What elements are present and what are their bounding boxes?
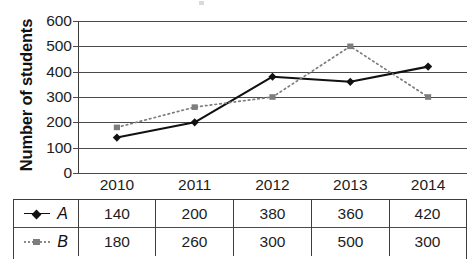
legend-cell-a: A [14,200,79,228]
page-artifact [199,1,204,5]
y-axis-tick-label: 0 [34,165,72,181]
table-cell: 180 [79,228,156,256]
table-cell: 140 [79,200,156,228]
y-axis-tick-label: 100 [34,140,72,156]
y-axis-tick-label: 600 [34,13,72,29]
data-point-b [425,94,431,100]
y-axis-tick-label: 200 [34,114,72,130]
y-axis-tick-label: 300 [34,89,72,105]
series-label-a: A [57,200,68,228]
table-cell: 300 [390,228,465,256]
data-point-b [347,44,353,50]
data-point-a [268,73,276,81]
y-axis-tick-label: 400 [34,64,72,80]
table-cell: 360 [312,200,390,228]
table-cell: 200 [156,200,234,228]
data-point-a [346,78,354,86]
series-label-b: B [57,228,68,256]
table-cell: 420 [390,200,465,228]
table-cell: 500 [312,228,390,256]
series-lines [78,21,467,173]
gridline [78,173,467,174]
square-marker-icon [24,237,50,247]
data-point-a [424,63,432,71]
data-table: A 140 200 380 360 420 B 180 260 300 500 … [13,199,467,259]
plot-area: 0100200300400500600 [78,21,467,173]
table-cell: 300 [234,228,312,256]
x-axis-tick-label: 2014 [389,176,467,194]
legend-cell-b: B [14,228,79,256]
y-axis-tick [73,173,78,174]
series-line-b [117,46,428,127]
table-row: A 140 200 380 360 420 [14,200,466,228]
table-row: B 180 260 300 500 300 [14,228,466,256]
table-cell: 380 [234,200,312,228]
data-point-b [192,104,198,110]
x-axis-tick-label: 2012 [234,176,312,194]
y-axis-tick-label: 500 [34,38,72,54]
data-point-a [113,133,121,141]
diamond-marker-icon [24,209,50,219]
table-cell: 260 [156,228,234,256]
x-axis-tick-label: 2013 [311,176,389,194]
data-point-b [114,125,120,131]
x-axis-tick-label: 2011 [156,176,234,194]
x-axis-tick-label: 2010 [78,176,156,194]
data-point-b [269,94,275,100]
x-axis-tick-labels: 20102011201220132014 [78,176,467,198]
